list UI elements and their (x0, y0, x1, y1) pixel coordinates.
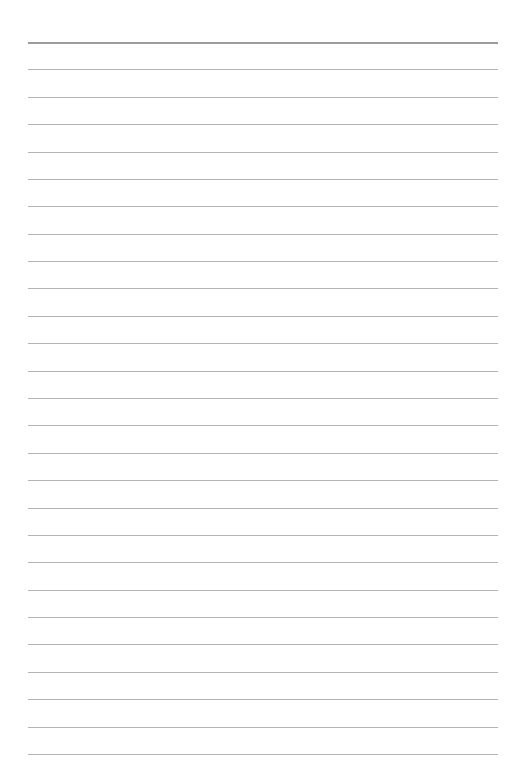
ruled-line (28, 316, 498, 317)
lined-page (0, 0, 511, 776)
ruled-line (28, 453, 498, 454)
ruled-line (28, 261, 498, 262)
ruled-line (28, 206, 498, 207)
ruled-line (28, 754, 498, 755)
ruled-line (28, 124, 498, 125)
ruled-line (28, 343, 498, 344)
ruled-line (28, 152, 498, 153)
ruled-line (28, 480, 498, 481)
ruled-line (28, 288, 498, 289)
ruled-line (28, 727, 498, 728)
ruled-line (28, 562, 498, 563)
ruled-line (28, 371, 498, 372)
ruled-line (28, 590, 498, 591)
ruled-line (28, 97, 498, 98)
ruled-line (28, 508, 498, 509)
ruled-line (28, 699, 498, 700)
ruled-line (28, 672, 498, 673)
ruled-line (28, 234, 498, 235)
ruled-line (28, 69, 498, 70)
ruled-line (28, 425, 498, 426)
ruled-line (28, 42, 498, 44)
ruled-line (28, 644, 498, 645)
ruled-line (28, 535, 498, 536)
ruled-line (28, 398, 498, 399)
ruled-line (28, 179, 498, 180)
ruled-line (28, 617, 498, 618)
